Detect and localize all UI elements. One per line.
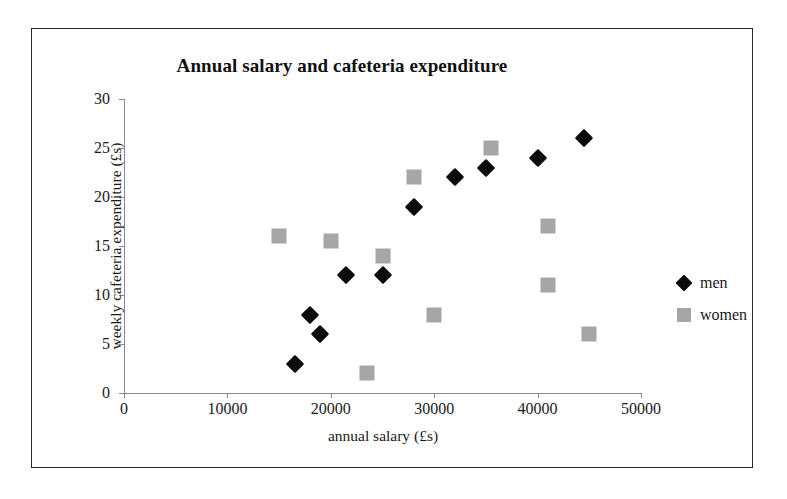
data-point-men <box>446 168 464 186</box>
x-axis-tick <box>124 393 125 398</box>
data-point-men <box>373 266 391 284</box>
chart-title: Annual salary and cafeteria expenditure <box>32 55 652 77</box>
data-point-women <box>406 170 421 185</box>
data-point-men <box>528 149 546 167</box>
data-point-men <box>477 158 495 176</box>
x-axis-tick <box>227 393 228 398</box>
data-point-men <box>404 198 422 216</box>
y-axis-tick-label: 0 <box>102 384 110 402</box>
y-axis-title: weekly cafeteria expenditure (£s) <box>107 143 125 350</box>
data-point-women <box>359 366 374 381</box>
y-axis-tick-label: 30 <box>94 90 110 108</box>
data-point-women <box>272 229 287 244</box>
x-axis-line <box>124 393 642 394</box>
x-axis-tick-label: 0 <box>120 400 128 418</box>
square-marker-icon <box>672 308 696 322</box>
x-axis-tick <box>641 393 642 398</box>
data-point-women <box>484 141 499 156</box>
y-axis-tick <box>119 99 124 100</box>
x-axis-tick-label: 20000 <box>311 400 351 418</box>
data-point-men <box>311 325 329 343</box>
chart-legend: men women <box>672 267 782 331</box>
data-point-women <box>427 307 442 322</box>
data-point-women <box>582 327 597 342</box>
legend-item-women: women <box>672 299 782 331</box>
x-axis-tick-label: 40000 <box>518 400 558 418</box>
data-point-men <box>285 354 303 372</box>
data-point-women <box>323 234 338 249</box>
data-point-women <box>375 248 390 263</box>
data-point-men <box>337 266 355 284</box>
data-point-men <box>575 129 593 147</box>
x-axis-tick-label: 50000 <box>621 400 661 418</box>
x-axis-title: annual salary (£s) <box>328 427 438 445</box>
plot-area: 051015202530 01000020000300004000050000 … <box>124 99 641 393</box>
data-point-men <box>301 305 319 323</box>
data-point-women <box>540 278 555 293</box>
legend-item-men: men <box>672 267 782 299</box>
x-axis-tick-label: 30000 <box>414 400 454 418</box>
legend-label-women: women <box>700 306 747 324</box>
x-axis-tick-label: 10000 <box>207 400 247 418</box>
diamond-marker-icon <box>672 277 696 289</box>
x-axis-tick <box>331 393 332 398</box>
x-axis-tick <box>538 393 539 398</box>
chart-figure-frame: Annual salary and cafeteria expenditure … <box>31 28 753 468</box>
legend-label-men: men <box>700 274 728 292</box>
data-point-women <box>540 219 555 234</box>
x-axis-tick <box>434 393 435 398</box>
